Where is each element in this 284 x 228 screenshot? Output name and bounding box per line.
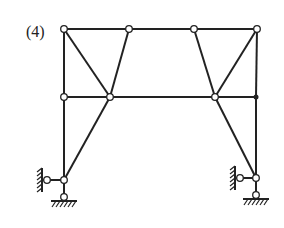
hinge-icon-S1 (44, 177, 51, 184)
rigid-joint-M4 (254, 95, 259, 100)
member-M3-B2 (215, 97, 256, 178)
member-T4-M4 (256, 29, 257, 97)
hinge-icon-S2 (237, 175, 244, 182)
hinge-icon-T2 (126, 26, 133, 33)
supports (37, 166, 269, 207)
hinge-icon-T4 (254, 26, 261, 33)
member-M2-B1 (64, 97, 110, 180)
hinge-icon-M2 (107, 94, 114, 101)
hinge-icon-B2 (253, 175, 260, 182)
hinge-icon-G2 (253, 192, 260, 199)
hinge-icon-M1 (61, 94, 68, 101)
hinge-icon-G1 (61, 194, 68, 201)
hinge-icon-M3 (212, 94, 219, 101)
member-T3-M3 (194, 29, 215, 97)
hinge-icon-T1 (61, 26, 68, 33)
truss-members (47, 29, 257, 197)
hinge-icon-B1 (61, 177, 68, 184)
hinge-icon-T3 (191, 26, 198, 33)
member-T2-M2 (110, 29, 129, 97)
truss-nodes (44, 26, 261, 201)
member-T1-M2 (64, 29, 110, 97)
member-T4-M3 (215, 29, 257, 97)
truss-diagram (0, 0, 284, 228)
